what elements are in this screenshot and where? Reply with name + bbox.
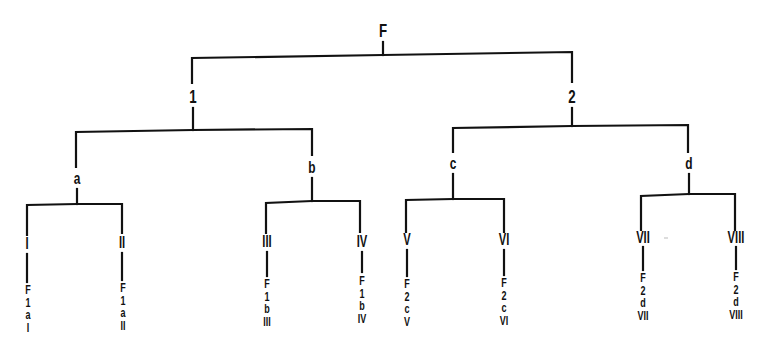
node-label-c: c [450, 155, 457, 172]
path-part: F [632, 272, 655, 285]
path-part: d [725, 296, 748, 309]
leaf-label-VII: VII [636, 230, 650, 246]
leaf-label-II: II [119, 235, 125, 251]
leaf-path-V: F 2 c V [396, 278, 419, 328]
path-part: c [493, 302, 516, 315]
node-label-2: 2 [568, 87, 575, 106]
path-part: F [493, 277, 516, 290]
path-part: F [351, 275, 374, 288]
node-2-branch-bar [453, 125, 688, 152]
leaf-label-VIII: VIII [728, 230, 745, 246]
path-part: F [396, 278, 419, 291]
leaf-path-VII: F 2 d VII [632, 272, 655, 322]
node-1-branch-bar [76, 129, 312, 167]
path-part: d [632, 297, 655, 310]
node-b-branch-bar [266, 201, 360, 233]
path-part: F [256, 278, 279, 291]
node-label-b: b [308, 159, 315, 176]
path-part: III [256, 316, 279, 329]
leaf-label-IV: IV [357, 234, 368, 250]
path-part: F [112, 282, 135, 295]
leaf-path-IV: F 1 b IV [351, 275, 374, 325]
path-part: b [351, 300, 374, 313]
leaf-path-VIII: F 2 d VIII [725, 271, 748, 321]
path-part: a [17, 309, 40, 322]
path-part: I [17, 322, 40, 335]
leaf-label-VI: VI [499, 232, 510, 248]
node-label-a: a [74, 170, 81, 187]
path-part: c [396, 303, 419, 316]
node-label-d: d [685, 155, 692, 172]
tree-diagram: F 1 2 a b c d I II III IV V VI VII VIII … [0, 0, 764, 353]
leaf-path-I: F 1 a I [17, 284, 40, 334]
path-part: a [112, 307, 135, 320]
leaf-label-III: III [262, 234, 271, 250]
leaf-label-V: V [403, 232, 410, 248]
leaf-label-I: I [25, 236, 28, 252]
root-branch-bar [192, 52, 572, 83]
leaf-path-III: F 1 b III [256, 278, 279, 328]
leaf-path-VI: F 2 c VI [493, 277, 516, 327]
node-c-branch-bar [406, 199, 504, 232]
path-part: b [256, 303, 279, 316]
path-part: IV [351, 313, 374, 326]
path-part: V [396, 316, 419, 329]
node-label-1: 1 [189, 87, 196, 106]
node-d-branch-bar [641, 194, 735, 230]
path-part: VII [632, 310, 655, 323]
path-part: II [112, 320, 135, 333]
node-label-root: F [379, 21, 387, 40]
path-part: F [725, 271, 748, 284]
path-part: VI [493, 315, 516, 328]
path-part: F [17, 284, 40, 297]
node-a-branch-bar [27, 204, 122, 235]
path-part: VIII [725, 309, 748, 322]
leaf-path-II: F 1 a II [112, 282, 135, 332]
